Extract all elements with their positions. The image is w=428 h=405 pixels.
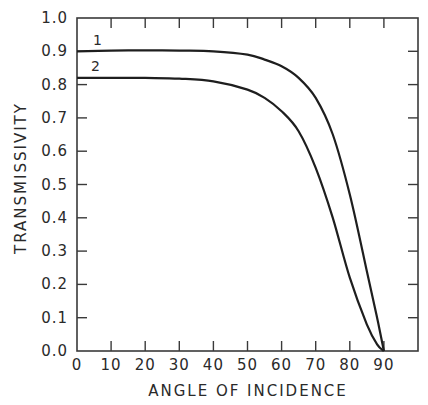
x-tick-label: 20 [135,356,156,374]
transmissivity-chart: 0102030405060708090 0.00.10.20.30.40.50.… [0,0,428,405]
x-tick-label: 90 [373,356,394,374]
curve-2 [77,78,384,351]
y-axis-title: TRANSMISSIVITY [12,102,30,255]
curve-label-1: 1 [93,32,102,48]
y-tick-label: 0.5 [41,176,68,194]
x-tick-label: 0 [72,356,83,374]
y-tick-label: 0.7 [41,109,68,127]
y-tick-label: 0.2 [41,275,68,293]
curve-1 [77,50,384,351]
plot-frame [77,18,418,351]
x-tick-label: 50 [237,356,258,374]
x-tick-label: 60 [271,356,292,374]
curves [77,50,384,351]
x-tick-label: 70 [305,356,326,374]
y-tick-label: 0.4 [41,209,68,227]
x-tick-labels: 0102030405060708090 [72,356,395,374]
y-tick-label: 0.8 [41,76,68,94]
y-tick-label: 0.9 [41,42,68,60]
x-axis-title: ANGLE OF INCIDENCE [148,382,348,400]
x-tick-label: 30 [169,356,190,374]
curve-label-2: 2 [91,58,100,74]
x-tick-label: 10 [101,356,122,374]
y-tick-label: 0.6 [41,142,68,160]
x-tick-label: 40 [203,356,224,374]
y-tick-label: 0.1 [41,309,68,327]
y-tick-label: 0.3 [41,242,68,260]
y-tick-labels: 0.00.10.20.30.40.50.60.70.80.91.0 [41,9,68,360]
y-tick-label: 1.0 [41,9,68,27]
axis-ticks [77,18,418,351]
y-tick-label: 0.0 [41,342,68,360]
x-tick-label: 80 [339,356,360,374]
